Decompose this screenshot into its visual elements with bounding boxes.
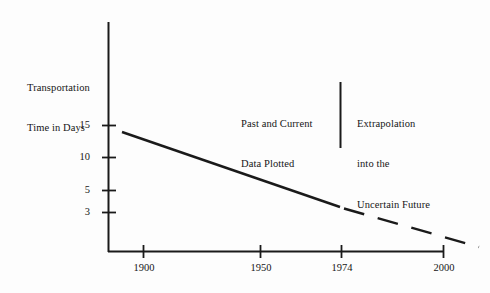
y-tick-label-15: 15: [62, 119, 90, 130]
y-tick-label-10: 10: [62, 151, 90, 162]
annotation-past-current-line2: Data Plotted: [241, 157, 313, 170]
annotation-extrapolation-line1: Extrapolation: [357, 117, 430, 130]
annotation-extrapolation-line3: Uncertain Future: [357, 198, 430, 211]
y-axis-title: Transportation Time in Days: [27, 54, 90, 162]
annotation-past-current-line1: Past and Current: [241, 117, 313, 130]
y-axis-title-line1: Transportation: [27, 81, 90, 94]
x-tick-label-2000: 2000: [414, 262, 474, 273]
y-tick-label-3: 3: [62, 206, 90, 217]
x-tick-label-1900: 1900: [114, 262, 174, 273]
annotation-extrapolation: Extrapolation into the Uncertain Future: [357, 90, 430, 238]
x-tick-label-1974: 1974: [312, 262, 372, 273]
x-tick-label-1950: 1950: [231, 262, 291, 273]
annotation-extrapolation-line2: into the: [357, 157, 430, 170]
annotation-past-current: Past and Current Data Plotted: [241, 90, 313, 198]
chart-figure: Transportation Time in Days 15 10 5 3 19…: [0, 0, 490, 293]
y-tick-label-5: 5: [62, 184, 90, 195]
